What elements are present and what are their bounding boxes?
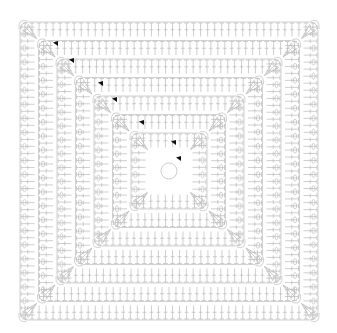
magic-ring-icon — [161, 163, 177, 179]
round-start-arrow-icon — [176, 156, 181, 161]
round-outline — [113, 115, 226, 228]
round-start-arrow-icon — [53, 41, 58, 46]
stitch-grid — [19, 20, 319, 321]
crochet-chart — [0, 0, 337, 333]
round-outline — [94, 96, 244, 246]
